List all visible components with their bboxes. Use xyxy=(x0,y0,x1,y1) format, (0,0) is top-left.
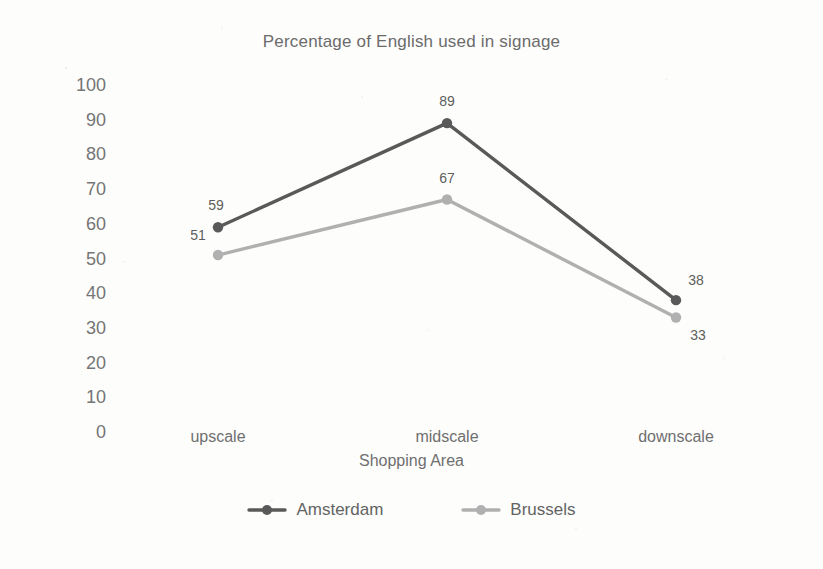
data-point-amsterdam-upscale xyxy=(213,222,223,232)
data-point-brussels-midscale xyxy=(442,194,452,204)
value-label-brussels-upscale: 51 xyxy=(190,227,206,243)
legend-item-amsterdam[interactable]: Amsterdam xyxy=(247,500,383,520)
value-label-amsterdam-midscale: 89 xyxy=(439,93,455,109)
legend-marker-brussels-icon xyxy=(461,503,501,517)
legend-item-brussels[interactable]: Brussels xyxy=(461,500,575,520)
data-point-brussels-upscale xyxy=(213,250,223,260)
value-label-amsterdam-downscale: 38 xyxy=(688,272,704,288)
series-line-brussels xyxy=(218,200,676,318)
legend-marker-amsterdam-icon xyxy=(247,503,287,517)
value-label-brussels-midscale: 67 xyxy=(439,170,455,186)
chart-legend: AmsterdamBrussels xyxy=(0,500,823,520)
value-label-brussels-downscale: 33 xyxy=(690,327,706,343)
series-line-amsterdam xyxy=(218,123,676,300)
data-point-brussels-downscale xyxy=(671,312,681,322)
data-point-amsterdam-midscale xyxy=(442,118,452,128)
chart-container: Percentage of English used in signage Pe… xyxy=(0,0,823,569)
legend-label-amsterdam: Amsterdam xyxy=(296,500,383,520)
data-point-amsterdam-downscale xyxy=(671,295,681,305)
value-label-amsterdam-upscale: 59 xyxy=(208,197,224,213)
legend-label-brussels: Brussels xyxy=(510,500,575,520)
